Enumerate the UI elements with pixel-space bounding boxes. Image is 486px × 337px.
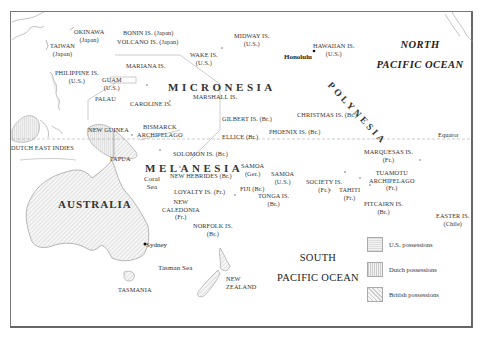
- north-pacific-ocean-label: NORTH PACIFIC OCEAN: [370, 35, 470, 75]
- island-hawaiian: HAWAIIAN IS.(U.S.): [313, 42, 355, 57]
- island-samoa-us: SAMOA(U.S.): [271, 170, 294, 185]
- dutch-east-indies-label: DUTCH EAST INDIES: [11, 144, 74, 152]
- legend-us: U.S. possessions: [367, 237, 433, 252]
- equator-label: Equator: [438, 131, 459, 138]
- dutch-east-indies: [12, 116, 39, 143]
- island-christmas: CHRISTMAS IS. (Br.): [297, 111, 357, 119]
- tasmania: [124, 271, 134, 281]
- island-loyalty: LOYALTY IS. (Fr.): [174, 188, 225, 196]
- british-pattern-swatch: [367, 287, 383, 302]
- island-guam: GUAM(U.S.): [102, 76, 122, 91]
- legend-british: British possessions: [367, 287, 439, 302]
- island-new-hebrides: NEW HEBRIDES (Br.): [170, 172, 232, 180]
- honolulu-label: Honolulu: [284, 53, 312, 61]
- south-pacific-ocean-label: SOUTH PACIFIC OCEAN: [268, 248, 368, 288]
- coral-sea-label: Coral Sea: [144, 176, 160, 191]
- new-guinea-label: NEW GUINEA: [88, 126, 129, 134]
- australia: [26, 160, 149, 261]
- new-zealand-north: [219, 248, 230, 271]
- island-ellice: ELLICE (Br.): [222, 133, 258, 141]
- island-marshall: MARSHALL IS.: [193, 93, 237, 101]
- island-midway: MIDWAY IS.(U.S.): [234, 32, 270, 47]
- papua-label: PAPUA: [110, 155, 131, 163]
- tasman-sea-label: Tasman Sea: [158, 265, 193, 273]
- us-pattern-swatch: [367, 237, 383, 252]
- island-bismarck: BISMARCKARCHIPELAGO: [137, 123, 183, 138]
- island-new-caledonia: NEWCALEDONIA(Fr.): [162, 198, 200, 221]
- island-taiwan: TAIWAN(Japan): [50, 42, 75, 57]
- island-easter: EASTER IS.(Chile): [436, 212, 470, 227]
- asia-coast: [12, 12, 44, 40]
- island-palau: PALAU: [95, 95, 116, 103]
- island-tonga: TONGA IS.(Br.): [258, 192, 289, 207]
- island-bonin: BONIN IS. (Japan): [123, 29, 174, 37]
- island-okinawa: OKINAWA(Japan): [74, 28, 104, 43]
- island-society: SOCIETY IS.(Fr.): [306, 178, 342, 193]
- island-wake: WAKE IS.(U.S.): [190, 51, 218, 66]
- island-pitcairn: PITCAIRN IS.(Br.): [364, 200, 403, 215]
- legend-dutch: Dutch possessions: [367, 262, 437, 277]
- island-tuamotu: TUAMOTUARCHIPELAGO(Fr.): [369, 169, 415, 192]
- australia-label: AUSTRALIA: [58, 198, 132, 210]
- dutch-pattern-swatch: [367, 262, 383, 277]
- island-volcano: VOLCANO IS. (Japan): [117, 38, 179, 46]
- island-philippine: PHILIPPINE IS.(U.S.): [55, 69, 99, 84]
- island-gilbert: GILBERT IS. (Br.): [222, 115, 272, 123]
- region-micronesia: MICRONESIA: [168, 81, 276, 93]
- island-marquesas: MARQUESAS IS.(Fr.): [364, 148, 413, 163]
- new-zealand-south: [197, 270, 220, 297]
- tasmania-label: TASMANIA: [118, 286, 152, 294]
- island-samoa-ger: SAMOA(Ger.): [241, 162, 264, 177]
- island-solomon: SOLOMON IS. (Br.): [173, 150, 228, 158]
- island-tahiti: TAHITI(Fr.): [339, 186, 360, 201]
- sydney-label: Sydney: [146, 241, 167, 249]
- island-caroline: CAROLINE IS.: [130, 100, 172, 108]
- island-mariana: MARIANA IS.: [126, 62, 166, 70]
- new-zealand-label: NEW ZEALAND: [226, 275, 256, 290]
- island-norfolk: NORFOLK IS.(Br.): [193, 222, 233, 237]
- island-phoenix: PHOENIX IS. (Br.): [269, 128, 320, 136]
